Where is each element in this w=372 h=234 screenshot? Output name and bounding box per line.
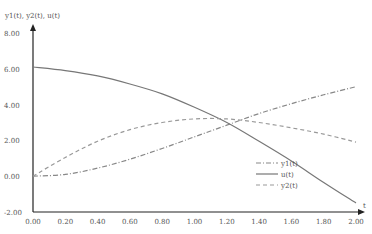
x-tick-label: 1.80 [316, 218, 332, 226]
line-chart: y1(t), y2(t), u(t)t-2.000.002.004.006.00… [0, 0, 372, 234]
y-tick-label: 4.00 [4, 102, 20, 110]
y-tick-label: 8.00 [4, 30, 20, 38]
chart-canvas: y1(t), y2(t), u(t)t-2.000.002.004.006.00… [0, 0, 372, 234]
y-tick-label: -2.00 [4, 209, 22, 217]
y-tick-label: 6.00 [4, 66, 20, 74]
x-axis-label: t [363, 202, 366, 210]
x-tick-label: 1.20 [219, 218, 235, 226]
y-axis-label: y1(t), y2(t), u(t) [4, 12, 60, 20]
x-tick-label: 1.60 [284, 218, 300, 226]
x-tick-label: 0.00 [25, 218, 41, 226]
y-axis-arrow-icon [30, 24, 36, 31]
x-tick-label: 0.40 [90, 218, 106, 226]
series-line-ut [33, 67, 356, 203]
x-tick-label: 1.00 [187, 218, 203, 226]
y-tick-label: 2.00 [4, 137, 20, 145]
y-tick-label: 0.00 [4, 173, 20, 181]
x-tick-label: 1.40 [251, 218, 267, 226]
x-tick-label: 0.20 [58, 218, 74, 226]
legend-label: y1(t) [280, 160, 298, 168]
series-line-y1t [33, 87, 356, 177]
series-line-y2t [33, 118, 356, 176]
legend-label: y2(t) [280, 182, 298, 190]
x-tick-label: 0.60 [122, 218, 138, 226]
x-tick-label: 2.00 [348, 218, 364, 226]
x-tick-label: 0.80 [154, 218, 170, 226]
legend-label: u(t) [281, 171, 294, 179]
